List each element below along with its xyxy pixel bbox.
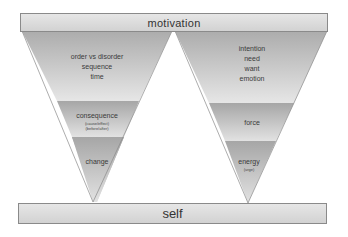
left-section-2: consequence (cause/effect) (before/after… <box>76 111 118 131</box>
left-section-1: order vs disorder sequence time <box>71 52 124 82</box>
right-section-2: force <box>244 118 260 128</box>
right-section-1: intention need want emotion <box>239 44 265 84</box>
motivation-bar: motivation <box>20 13 328 32</box>
left-section-3: change <box>86 157 109 167</box>
funnels-graphic <box>0 0 348 237</box>
self-label: self <box>162 206 182 221</box>
self-bar: self <box>18 203 327 224</box>
motivation-label: motivation <box>147 17 200 29</box>
right-section-3: energy (urge) <box>238 157 259 172</box>
